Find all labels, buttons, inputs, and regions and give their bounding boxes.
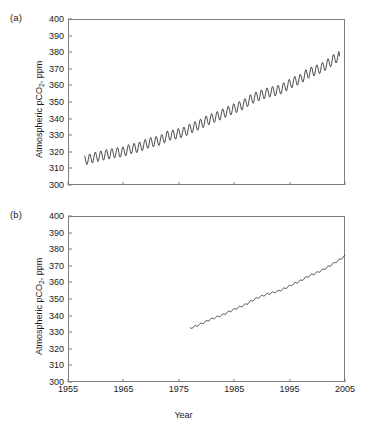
x-tick-mark	[289, 182, 290, 186]
y-tick-mark	[68, 135, 72, 136]
y-tick-mark	[68, 348, 72, 349]
y-tick-label: 350	[49, 98, 64, 107]
y-tick-mark	[68, 216, 72, 217]
x-tick-label: 1985	[224, 385, 244, 394]
y-tick-mark	[68, 332, 72, 333]
panel-a-data-line	[68, 19, 345, 185]
x-tick-mark	[345, 379, 346, 383]
y-tick-label: 310	[49, 164, 64, 173]
panel-a-plot-area: 300310320330340350360370380390400	[68, 19, 345, 185]
y-tick-label: 380	[49, 48, 64, 57]
x-tick-label: 1955	[58, 385, 78, 394]
y-tick-mark	[68, 68, 72, 69]
y-tick-mark	[68, 102, 72, 103]
y-tick-mark	[68, 151, 72, 152]
x-tick-mark	[123, 379, 124, 383]
y-tick-label: 330	[49, 328, 64, 337]
x-tick-mark	[123, 182, 124, 186]
x-tick-mark	[234, 379, 235, 383]
y-tick-label: 340	[49, 114, 64, 123]
y-tick-label: 380	[49, 245, 64, 254]
y-tick-label: 390	[49, 31, 64, 40]
y-tick-mark	[68, 315, 72, 316]
panel-b-data-line	[68, 216, 345, 382]
x-tick-label: 1995	[280, 385, 300, 394]
y-tick-label: 390	[49, 228, 64, 237]
panel-b: (b) Atmospheric pCO2, ppm 30031032033034…	[0, 197, 367, 435]
figure-co2-records: (a) Atmospheric pCO2, ppm 30031032033034…	[0, 0, 367, 435]
x-tick-mark	[345, 182, 346, 186]
y-tick-label: 310	[49, 361, 64, 370]
y-tick-label: 400	[49, 15, 64, 24]
y-tick-label: 400	[49, 212, 64, 221]
y-tick-mark	[68, 282, 72, 283]
y-tick-mark	[68, 232, 72, 233]
x-axis-label: Year	[0, 410, 367, 420]
panel-a-y-axis-label: Atmospheric pCO2, ppm	[34, 61, 44, 158]
y-tick-mark	[68, 265, 72, 266]
y-tick-mark	[68, 118, 72, 119]
panel-a: (a) Atmospheric pCO2, ppm 30031032033034…	[0, 0, 367, 218]
y-tick-label: 360	[49, 278, 64, 287]
y-tick-label: 360	[49, 81, 64, 90]
y-tick-mark	[68, 52, 72, 53]
x-tick-mark	[178, 379, 179, 383]
x-tick-label: 1975	[169, 385, 189, 394]
y-tick-mark	[68, 85, 72, 86]
x-tick-mark	[68, 379, 69, 383]
y-tick-mark	[68, 249, 72, 250]
y-tick-label: 370	[49, 64, 64, 73]
y-tick-mark	[68, 185, 72, 186]
x-tick-mark	[289, 379, 290, 383]
x-tick-label: 1965	[113, 385, 133, 394]
x-tick-mark	[234, 182, 235, 186]
y-tick-label: 330	[49, 131, 64, 140]
y-tick-label: 300	[49, 181, 64, 190]
y-tick-mark	[68, 19, 72, 20]
y-tick-mark	[68, 299, 72, 300]
panel-b-label: (b)	[10, 209, 22, 220]
panel-a-label: (a)	[10, 12, 22, 23]
y-tick-label: 350	[49, 295, 64, 304]
y-tick-label: 320	[49, 147, 64, 156]
y-tick-label: 320	[49, 344, 64, 353]
x-tick-mark	[178, 182, 179, 186]
x-tick-mark	[68, 182, 69, 186]
panel-b-y-axis-label: Atmospheric pCO2, ppm	[34, 258, 44, 355]
y-tick-mark	[68, 168, 72, 169]
y-tick-mark	[68, 382, 72, 383]
y-tick-mark	[68, 35, 72, 36]
panel-b-plot-area: 3003103203303403503603703803904001955196…	[68, 216, 345, 382]
y-tick-mark	[68, 365, 72, 366]
y-tick-label: 370	[49, 261, 64, 270]
y-tick-label: 340	[49, 311, 64, 320]
x-tick-label: 2005	[335, 385, 355, 394]
